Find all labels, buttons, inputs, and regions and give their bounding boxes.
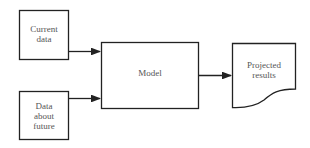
projected-results-label: Projected results [232, 60, 296, 80]
data-about-future-label: Data about future [19, 101, 69, 131]
current-data-label: Current data [19, 24, 69, 44]
model-label: Model [101, 68, 199, 78]
